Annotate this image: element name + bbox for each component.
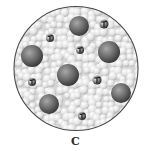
small-particle [29, 15, 35, 21]
small-particle [108, 126, 117, 135]
small-particle [23, 112, 31, 120]
small-particle [56, 22, 62, 28]
small-molecule [100, 20, 109, 29]
small-particle [100, 5, 107, 12]
small-particle [116, 118, 124, 126]
small-particle [103, 96, 110, 103]
small-particle [135, 73, 142, 80]
small-particle [8, 29, 17, 38]
small-particle [109, 3, 116, 10]
small-particle [86, 46, 95, 55]
small-particle [55, 128, 61, 134]
small-particle [12, 8, 20, 16]
large-particle [111, 83, 131, 103]
small-particle [125, 105, 134, 114]
small-particle [135, 11, 142, 18]
small-particle [132, 121, 141, 130]
small-particle [11, 3, 18, 10]
small-particle [115, 35, 122, 42]
small-particle [123, 60, 130, 67]
small-particle [131, 125, 140, 134]
large-particle [98, 41, 120, 63]
small-particle [134, 107, 142, 115]
small-particle [17, 23, 25, 31]
small-particle [48, 28, 55, 35]
small-particle [121, 114, 129, 122]
small-particle [64, 92, 70, 98]
small-particle [48, 80, 55, 87]
small-particle [79, 85, 88, 94]
particle-mixture-diagram [0, 0, 151, 151]
small-molecule [28, 78, 36, 86]
small-particle [29, 27, 37, 35]
small-particle [84, 67, 91, 74]
small-particle [9, 93, 16, 100]
small-particle [134, 113, 144, 123]
small-particle [8, 111, 17, 120]
small-particle [126, 127, 132, 133]
small-particle [14, 120, 23, 129]
small-particle [9, 20, 19, 30]
small-molecule [76, 46, 84, 54]
small-molecule [46, 34, 54, 42]
small-particle [17, 14, 25, 22]
small-particle [56, 60, 63, 67]
small-particle [23, 9, 30, 16]
small-particle [99, 28, 108, 37]
small-particle [123, 8, 130, 15]
small-particle [16, 60, 23, 67]
small-particle [93, 68, 100, 75]
small-particle [35, 80, 43, 88]
small-particle [21, 4, 29, 12]
small-particle [135, 43, 142, 50]
small-particle [95, 127, 103, 135]
small-particle [120, 15, 129, 24]
large-particle [69, 16, 89, 36]
small-particle [122, 1, 129, 8]
small-particle [16, 2, 24, 10]
large-particle [21, 45, 43, 67]
small-particle [129, 113, 137, 121]
small-particle [133, 3, 141, 11]
small-particle [12, 35, 19, 42]
small-particle [21, 14, 30, 23]
small-particle [129, 21, 137, 29]
small-particle [28, 113, 37, 122]
small-particle [17, 80, 24, 87]
small-particle [16, 8, 25, 17]
small-particle [122, 126, 130, 134]
small-particle [135, 16, 144, 25]
panel-label: C [0, 135, 151, 149]
small-molecule [93, 76, 102, 85]
small-particle [39, 128, 45, 134]
small-particle [128, 2, 135, 9]
small-particle [120, 118, 127, 125]
small-particle [42, 4, 49, 11]
small-particle [74, 92, 81, 99]
small-particle [96, 2, 104, 10]
small-particle [113, 105, 120, 112]
small-particle [115, 11, 122, 18]
small-particle [119, 47, 127, 55]
small-particle [10, 105, 17, 112]
small-particle [37, 1, 45, 9]
small-particle [128, 17, 136, 25]
small-particle [34, 121, 41, 128]
small-particle [29, 1, 38, 10]
small-particle [87, 120, 94, 127]
small-particle [36, 112, 44, 120]
small-particle [86, 33, 95, 42]
small-particle [25, 126, 32, 133]
small-particle [31, 127, 38, 134]
large-particle [39, 94, 59, 114]
small-particle [67, 124, 76, 133]
small-particle [109, 72, 118, 81]
small-particle [133, 22, 140, 29]
small-particle [22, 119, 29, 126]
small-particle [30, 121, 38, 129]
small-particle [12, 102, 19, 109]
small-particle [44, 125, 51, 132]
small-particle [18, 107, 27, 116]
small-particle [50, 21, 57, 28]
small-particle [50, 3, 57, 10]
